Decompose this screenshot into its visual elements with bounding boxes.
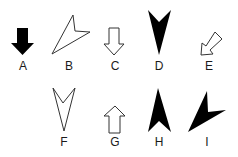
solid-arrowhead-up-icon xyxy=(148,88,171,132)
figure-g: G xyxy=(104,106,125,149)
figure-label-a: A xyxy=(19,59,27,73)
solid-arrowhead-down-left-icon xyxy=(188,91,226,132)
figure-label-f: F xyxy=(60,135,67,149)
figure-label-b: B xyxy=(65,59,73,73)
solid-arrowhead-down-icon xyxy=(148,10,171,55)
outline-up-block-arrow-icon xyxy=(104,106,125,133)
outline-arrowhead-down-left-icon xyxy=(52,15,90,54)
figure-d: D xyxy=(148,10,171,73)
figure-a: A xyxy=(11,28,34,73)
outline-arrowhead-down-icon xyxy=(53,88,75,131)
figure-label-e: E xyxy=(205,59,213,73)
figure-label-h: H xyxy=(155,135,164,149)
solid-down-block-arrow-icon xyxy=(11,28,34,55)
outline-block-arrow-down-left-icon xyxy=(201,32,222,55)
outline-down-block-arrow-icon xyxy=(104,28,124,55)
figure-c: C xyxy=(104,28,124,73)
figure-label-c: C xyxy=(111,59,120,73)
figure-label-g: G xyxy=(110,135,119,149)
figure-label-i: I xyxy=(205,135,208,149)
figure-label-d: D xyxy=(155,59,164,73)
arrow-figures-diagram: A B C D E F G H I xyxy=(0,0,238,157)
figure-b: B xyxy=(52,15,90,73)
figure-e: E xyxy=(201,32,222,73)
figure-f: F xyxy=(53,88,75,149)
figure-h: H xyxy=(148,88,171,149)
figure-i: I xyxy=(188,91,226,149)
